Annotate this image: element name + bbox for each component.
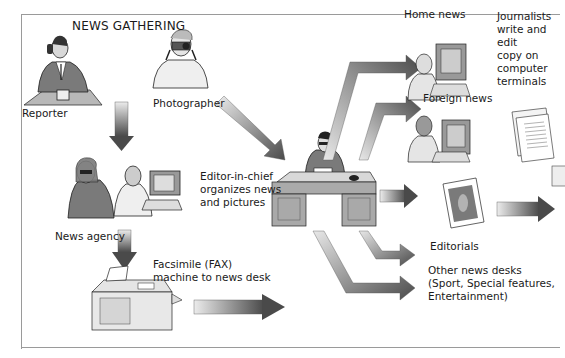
label-journalists: Journalists write and edit copy on compu…: [497, 10, 565, 88]
label-editorials: Editorials: [430, 240, 479, 253]
label-editor-in-chief: Editor-in-chief organizes news and pictu…: [200, 170, 281, 209]
arrow-desk-to-editorials: [359, 231, 415, 266]
arrow-picture-to-page: [497, 196, 555, 222]
label-other-news-desks: Other news desks (Sport, Special feature…: [428, 264, 555, 303]
arrow-desk-to-picture: [380, 184, 418, 208]
documents-illustration: [512, 108, 554, 162]
arrow-fax-to-desk: [194, 294, 285, 320]
news-agency-illustration: [68, 158, 182, 218]
label-foreign-news: Foreign news: [423, 92, 492, 105]
diagram-artwork: [0, 0, 565, 358]
label-news-agency: News agency: [55, 230, 125, 243]
label-fax: Facsimile (FAX) machine to news desk: [153, 258, 271, 284]
label-photographer: Photographer: [153, 97, 224, 110]
arrow-photographer-to-editor: [216, 96, 286, 160]
reporter-illustration: [24, 36, 102, 105]
diagram-title: NEWS GATHERING: [72, 20, 185, 33]
editor-desk-illustration: [272, 132, 376, 226]
label-home-news: Home news: [404, 8, 466, 21]
photographer-illustration: [153, 30, 208, 88]
foreign-news-journalist-illustration: [408, 116, 470, 162]
label-reporter: Reporter: [22, 107, 68, 120]
photo-print-illustration: [443, 178, 484, 228]
page-edge-illustration: [552, 166, 565, 186]
arrow-desk-to-other-desks: [313, 231, 415, 300]
arrow-reporter-to-agency: [109, 102, 134, 151]
